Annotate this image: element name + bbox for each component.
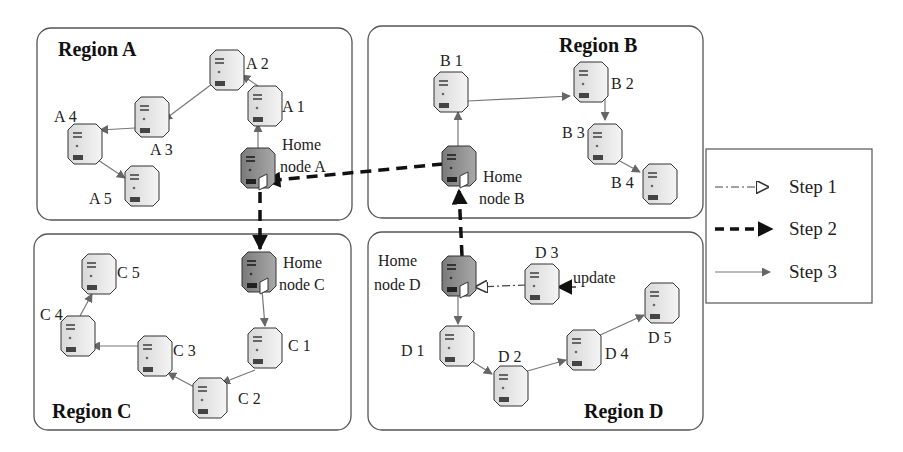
home-node-c-server-icon[interactable] [242, 252, 276, 294]
server-icon-b3[interactable] [588, 124, 622, 164]
server-icon-c5[interactable] [82, 254, 116, 294]
server-icon-b2[interactable] [574, 62, 608, 102]
home-node-a-label: Home [282, 136, 321, 153]
node-label-d4: D 4 [605, 345, 629, 362]
legend-step3-label: Step 3 [789, 261, 837, 282]
home-node-b-label: Home [483, 168, 522, 185]
node-label-d3: D 3 [535, 244, 559, 261]
node-label-a5: A 5 [89, 190, 112, 207]
node-label-c1: C 1 [288, 337, 311, 354]
region-b-title: Region B [559, 34, 637, 57]
region-a-title: Region A [58, 38, 137, 61]
node-label-b2: B 2 [611, 75, 634, 92]
server-icon-d1[interactable] [440, 326, 474, 366]
server-icon-b4[interactable] [643, 164, 677, 204]
node-label-d5: D 5 [648, 329, 672, 346]
server-icon-a1[interactable] [248, 86, 282, 126]
node-label-b3: B 3 [562, 124, 585, 141]
server-icon-a2[interactable] [210, 50, 244, 90]
node-label-c4: C 4 [40, 306, 63, 323]
server-icon-d4[interactable] [567, 330, 601, 370]
node-label-a2: A 2 [246, 55, 269, 72]
update-label: update [573, 269, 616, 287]
home-node-b-label-2: node B [479, 190, 525, 207]
home-node-d-label: Home [378, 252, 417, 269]
region-c-title: Region C [52, 400, 131, 423]
server-icon-a4[interactable] [68, 124, 102, 164]
node-label-d1: D 1 [401, 342, 425, 359]
node-label-c5: C 5 [117, 264, 140, 281]
region-d-title: Region D [584, 400, 663, 423]
server-icon-d3[interactable] [525, 264, 559, 304]
server-icon-c4[interactable] [61, 316, 95, 356]
node-label-a4: A 4 [54, 108, 77, 125]
node-label-b4: B 4 [611, 174, 634, 191]
server-icon-b1[interactable] [434, 72, 468, 112]
home-node-c-label-2: node C [279, 276, 325, 293]
home-node-c-label: Home [283, 254, 322, 271]
home-node-d-label-2: node D [374, 276, 421, 293]
diagram-canvas: Region A Region B Region C Region D [0, 0, 903, 452]
home-node-b-server-icon[interactable] [442, 146, 476, 188]
node-label-a3: A 3 [150, 141, 173, 158]
legend: Step 1 Step 2 Step 3 [706, 149, 872, 303]
server-icon-c2[interactable] [193, 378, 227, 418]
home-node-a-label-2: node A [280, 158, 326, 175]
server-icon-a5[interactable] [125, 166, 159, 206]
server-icon-c3[interactable] [138, 336, 172, 376]
home-node-a-server-icon[interactable] [241, 148, 275, 190]
server-icon-d5[interactable] [645, 283, 679, 323]
node-label-a1: A 1 [282, 98, 305, 115]
legend-step1-label: Step 1 [789, 176, 837, 197]
server-icon-a3[interactable] [135, 97, 169, 137]
node-label-c3: C 3 [173, 342, 196, 359]
node-label-c2: C 2 [238, 390, 261, 407]
server-icon-c1[interactable] [248, 328, 282, 368]
node-label-b1: B 1 [440, 52, 463, 69]
server-icon-d2[interactable] [494, 366, 528, 406]
legend-step2-label: Step 2 [789, 218, 837, 239]
node-label-d2: D 2 [498, 348, 522, 365]
home-node-d-server-icon[interactable] [442, 256, 476, 298]
